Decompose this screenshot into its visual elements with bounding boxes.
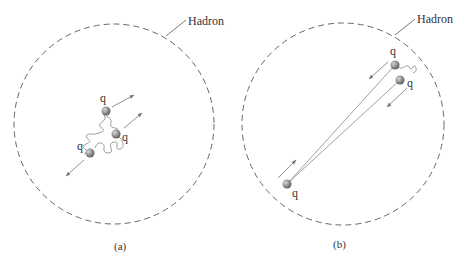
flux-line [288, 65, 395, 183]
hadron-leader-line [166, 20, 186, 36]
arrow-icon [387, 88, 407, 107]
quark [283, 180, 292, 189]
panel-caption: (a) [114, 240, 127, 253]
arrow-icon [278, 160, 296, 178]
panel-a: Hadron q q q (a) [14, 14, 224, 253]
quark [112, 130, 121, 139]
panel-b: Hadron q q q (b) [242, 12, 453, 251]
quark-label: q [100, 91, 106, 105]
quark-label: q [390, 44, 396, 58]
hadron-label: Hadron [417, 12, 453, 26]
arrow-icon [124, 113, 142, 128]
quark [86, 149, 95, 158]
arrow-icon [66, 160, 84, 176]
hadron-leader-line [395, 19, 415, 35]
hadron-diagram: Hadron q q q (a) Hadron q q [0, 0, 470, 270]
arrow-icon [112, 95, 134, 107]
hadron-boundary [242, 23, 444, 225]
gluon-field [398, 66, 416, 74]
quark-label: q [407, 76, 413, 90]
panel-caption: (b) [333, 238, 346, 251]
quark-label: q [77, 139, 83, 153]
quark [391, 61, 400, 70]
quark-label: q [122, 130, 128, 144]
quark-label: q [292, 186, 298, 200]
flux-line [288, 80, 400, 183]
quark [102, 107, 111, 116]
quark [396, 76, 405, 85]
hadron-label: Hadron [188, 14, 224, 28]
hadron-boundary [14, 24, 214, 224]
